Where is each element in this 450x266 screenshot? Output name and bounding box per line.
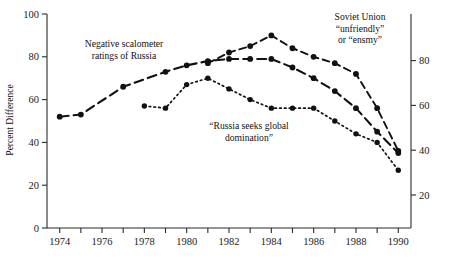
x-axis: 197419761978198019821984198619881990: [47, 228, 411, 247]
data-point: [290, 65, 296, 71]
data-point: [142, 103, 147, 108]
x-axis-tick-label: 1984: [261, 236, 283, 247]
data-point: [163, 105, 168, 110]
data-point: [311, 54, 317, 60]
data-point: [290, 105, 295, 110]
data-point: [247, 43, 253, 49]
data-point: [226, 56, 232, 62]
right-axis-tick-label: 80: [419, 55, 430, 66]
annotation-group: Negative scalometerratings of Russia“Rus…: [85, 11, 386, 143]
x-axis-tick-label: 1986: [303, 236, 324, 247]
y-axis-title-text: Percent Difference: [5, 84, 15, 155]
data-point: [78, 112, 84, 118]
left-axis-tick-label: 40: [29, 137, 40, 148]
data-point: [353, 131, 358, 136]
left-axis-tick-label: 20: [29, 180, 40, 191]
data-point: [205, 60, 211, 66]
soviet-union-unfriendly-annotation: Soviet Union“unfriendly”or “ensmy”: [335, 11, 386, 45]
chart-figure: 020406080100 20406080 197419761978198019…: [0, 0, 450, 266]
x-axis-tick-label: 1974: [49, 236, 71, 247]
x-axis-tick-label: 1990: [388, 236, 409, 247]
data-point: [374, 129, 380, 135]
right-axis-tick-label: 60: [419, 100, 430, 111]
x-axis-tick-label: 1976: [92, 236, 113, 247]
data-point: [268, 56, 274, 62]
y-axis-title: Percent Difference: [5, 84, 15, 155]
data-point: [184, 82, 189, 87]
data-point: [290, 45, 296, 51]
data-point: [226, 86, 231, 91]
data-point: [268, 33, 274, 39]
negative-scalometer-annotation: Negative scalometerratings of Russia: [85, 38, 164, 61]
right-axis-tick-label: 20: [419, 190, 430, 201]
data-point: [205, 76, 210, 81]
left-axis: 020406080100: [23, 9, 47, 234]
data-point: [353, 105, 359, 111]
data-point: [374, 140, 379, 145]
data-point: [163, 69, 169, 75]
data-point: [57, 114, 63, 120]
x-axis-tick-label: 1988: [345, 236, 366, 247]
right-axis: 20406080: [411, 14, 430, 228]
left-axis-tick-label: 80: [29, 51, 40, 62]
x-axis-tick-label: 1980: [176, 236, 197, 247]
data-point: [247, 97, 252, 102]
data-point: [120, 84, 126, 90]
data-point: [226, 50, 232, 56]
data-point: [247, 56, 253, 62]
x-axis-tick-label: 1982: [219, 236, 240, 247]
data-point: [374, 105, 380, 111]
data-point: [311, 105, 316, 110]
data-point: [353, 71, 359, 77]
data-point: [332, 88, 338, 94]
data-point: [396, 168, 401, 173]
left-axis-tick-label: 60: [29, 94, 40, 105]
data-point: [184, 62, 190, 68]
data-point: [269, 105, 274, 110]
data-point: [332, 118, 337, 123]
data-point: [395, 148, 401, 154]
data-point: [332, 60, 338, 66]
russia-seeks-global-domination-annotation: “Russia seeks globaldomination”: [209, 120, 289, 143]
chart-canvas: 020406080100 20406080 197419761978198019…: [0, 0, 450, 266]
data-point: [311, 75, 317, 81]
left-axis-tick-label: 0: [34, 223, 39, 234]
x-axis-tick-label: 1978: [134, 236, 155, 247]
right-axis-tick-label: 40: [419, 145, 430, 156]
left-axis-tick-label: 100: [23, 9, 39, 20]
